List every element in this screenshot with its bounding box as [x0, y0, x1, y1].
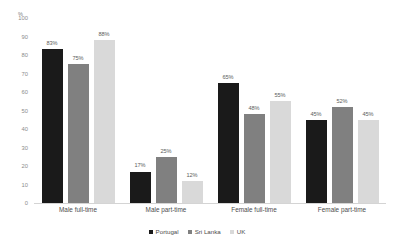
y-axis-tick: 0 [25, 201, 28, 207]
bar-value-label: 55% [274, 93, 285, 99]
legend-swatch-icon [188, 230, 193, 235]
bar-group: 45%52%45% [298, 18, 386, 203]
legend-swatch-icon [149, 230, 154, 235]
x-axis: Male full-timeMale part-timeFemale full-… [34, 206, 386, 222]
bar-value-label: 83% [46, 41, 57, 47]
bar-value-label: 75% [72, 56, 83, 62]
bar-value-label: 45% [310, 112, 321, 118]
bar-value-label: 65% [222, 75, 233, 81]
y-axis-tick: 90 [22, 35, 28, 41]
bar-rect[interactable] [42, 49, 63, 203]
bar-rect[interactable] [358, 120, 379, 203]
bar[interactable]: 17% [130, 18, 151, 203]
bar[interactable]: 52% [332, 18, 353, 203]
bar[interactable]: 75% [68, 18, 89, 203]
bar-rect[interactable] [156, 157, 177, 203]
y-axis-tick: 70 [22, 72, 28, 78]
bar[interactable]: 88% [94, 18, 115, 203]
bar-rect[interactable] [270, 101, 291, 203]
bar-group: 65%48%55% [210, 18, 298, 203]
legend-swatch-icon [230, 230, 235, 235]
y-axis-tick: 100 [18, 16, 28, 22]
bar-rect[interactable] [94, 40, 115, 203]
legend-item[interactable]: Sri Lanka [188, 229, 221, 235]
bar[interactable]: 25% [156, 18, 177, 203]
y-axis-tick: 50 [22, 109, 28, 115]
bar-rect[interactable] [130, 172, 151, 203]
bar-value-label: 88% [98, 32, 109, 38]
bar[interactable]: 48% [244, 18, 265, 203]
legend-item[interactable]: Portugal [149, 229, 179, 235]
x-axis-category-label: Female full-time [231, 206, 276, 213]
bar-value-label: 52% [336, 99, 347, 105]
bar-value-label: 17% [134, 163, 145, 169]
bar-rect[interactable] [182, 181, 203, 203]
bar[interactable]: 45% [306, 18, 327, 203]
bar[interactable]: 12% [182, 18, 203, 203]
y-axis-tick: 40 [22, 127, 28, 133]
y-axis-tick: 60 [22, 90, 28, 96]
x-axis-category-label: Male full-time [59, 206, 97, 213]
legend-label: Sri Lanka [195, 229, 221, 235]
bar-value-label: 12% [186, 173, 197, 179]
y-axis-tick: 10 [22, 183, 28, 189]
bar[interactable]: 55% [270, 18, 291, 203]
bar-value-label: 48% [248, 106, 259, 112]
bar-rect[interactable] [218, 83, 239, 203]
x-axis-category-label: Male part-time [146, 206, 187, 213]
chart-legend: PortugalSri LankaUK [0, 229, 394, 235]
bar[interactable]: 45% [358, 18, 379, 203]
bar-group: 17%25%12% [122, 18, 210, 203]
bar-rect[interactable] [306, 120, 327, 203]
legend-item[interactable]: UK [230, 229, 246, 235]
x-axis-category-label: Female part-time [318, 206, 366, 213]
axis-baseline [34, 203, 386, 204]
bar[interactable]: 65% [218, 18, 239, 203]
plot-area: 83%75%88%17%25%12%65%48%55%45%52%45% [34, 18, 386, 204]
bar-rect[interactable] [244, 114, 265, 203]
y-axis-tick: 80 [22, 53, 28, 59]
bar[interactable]: 83% [42, 18, 63, 203]
bar-rect[interactable] [68, 64, 89, 203]
legend-label: UK [237, 229, 246, 235]
bar-value-label: 45% [362, 112, 373, 118]
y-axis-tick: 30 [22, 146, 28, 152]
y-axis-tick: 20 [22, 164, 28, 170]
bar-rect[interactable] [332, 107, 353, 203]
y-axis: 1009080706050403020100 [0, 18, 34, 204]
bar-value-label: 25% [160, 149, 171, 155]
bar-group: 83%75%88% [34, 18, 122, 203]
bar-chart: % 1009080706050403020100 83%75%88%17%25%… [0, 0, 394, 250]
legend-label: Portugal [156, 229, 179, 235]
